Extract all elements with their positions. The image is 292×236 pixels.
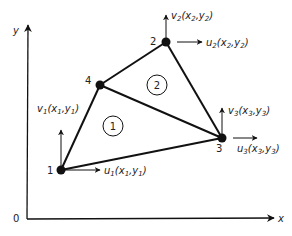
- node-1-label: 1: [47, 165, 53, 176]
- x-axis: [27, 218, 274, 219]
- edge-4-3: [100, 85, 222, 138]
- y-axis-label: y: [12, 25, 20, 36]
- mesh-edges: [61, 42, 222, 170]
- node-3-label: 3: [216, 143, 222, 154]
- fem-diagram: 0 x y 1 2 1 u1(x1,y1) v1(x1,y1) 2 u2(x2,…: [0, 0, 292, 236]
- edge-4-2: [100, 42, 166, 85]
- node-2: 2 u2(x2,y2) v2(x2,y2): [150, 10, 249, 50]
- node-4: 4: [85, 75, 105, 90]
- edge-1-3: [61, 138, 222, 170]
- svg-text:1: 1: [110, 121, 116, 132]
- u1-label: u1(x1,y1): [104, 165, 147, 178]
- element-2-label: 2: [147, 75, 167, 95]
- v3-label: v3(x3,y3): [228, 105, 270, 118]
- v2-label: v2(x2,y2): [171, 10, 213, 23]
- v1-label: v1(x1,y1): [37, 103, 79, 116]
- node-3: 3 u3(x3,y3) v3(x3,y3): [216, 105, 280, 156]
- y-axis: [27, 25, 28, 219]
- svg-text:2: 2: [154, 80, 160, 91]
- u2-label: u2(x2,y2): [206, 37, 249, 50]
- edge-2-3: [166, 42, 222, 138]
- x-axis-label: x: [277, 213, 284, 224]
- node-1: 1 u1(x1,y1) v1(x1,y1): [37, 103, 147, 178]
- node-2-label: 2: [150, 36, 156, 47]
- u3-label: u3(x3,y3): [237, 143, 280, 156]
- origin-label: 0: [13, 213, 19, 224]
- edge-1-4: [61, 85, 100, 170]
- node-4-label: 4: [85, 75, 91, 86]
- element-1-label: 1: [103, 116, 123, 136]
